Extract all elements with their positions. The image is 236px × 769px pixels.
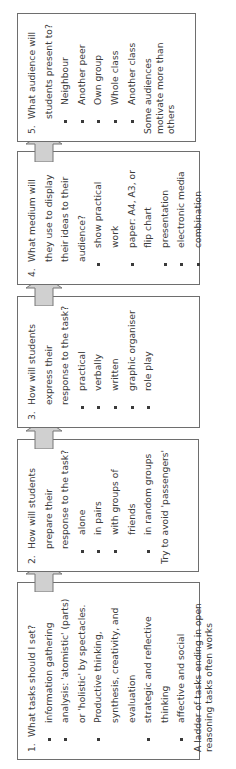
option-list: alone in pairs with groups of friends in…: [74, 446, 157, 564]
step-number: 2.: [24, 549, 74, 564]
step-note: Some audiences motivate more than others: [142, 20, 177, 134]
option-list: Neighbour Another peer Own group Whole c…: [57, 20, 140, 134]
step-question-5: 5. What audience will students present t…: [24, 20, 57, 134]
list-item: with groups of friends: [107, 446, 140, 555]
step-box-2: 2. How will students prepare their respo…: [17, 439, 199, 572]
list-item: in random groups: [140, 446, 157, 555]
question-text: What medium will they use to display the…: [24, 158, 90, 262]
list-item: presentation: [157, 158, 174, 268]
step-question-2: 2. How will students prepare their respo…: [24, 446, 74, 564]
list-item: paper: A4, A3, or flip chart: [124, 158, 157, 268]
step-question-1: 1. What tasks should I set?: [24, 589, 41, 752]
option-list: practical verbally written graphic organ…: [74, 303, 157, 420]
question-text: How will students prepare their response…: [24, 446, 74, 549]
list-item: verbally: [90, 303, 107, 411]
list-item: written: [107, 303, 124, 411]
step-box-4: 4. What medium will they use to display …: [17, 151, 200, 285]
list-item: practical: [74, 303, 91, 411]
list-item: Another peer: [74, 20, 91, 125]
list-item: Another class: [124, 20, 141, 125]
step-box-5: 5. What audience will students present t…: [17, 13, 196, 142]
option-list: information gathering analysis: 'atomist…: [41, 589, 190, 752]
step-box-3: 3. How will students express their respo…: [17, 296, 200, 428]
question-text: What tasks should I set?: [24, 589, 41, 737]
step-box-1: 1. What tasks should I set? information …: [17, 582, 200, 760]
step-note: Try to avoid 'passengers': [157, 446, 174, 564]
option-list: show practical work paper: A4, A3, or fl…: [90, 158, 206, 277]
step-number: 4.: [24, 262, 90, 277]
step-number: 5.: [24, 119, 57, 134]
list-item: role play: [140, 303, 157, 411]
step-question-4: 4. What medium will they use to display …: [24, 158, 90, 277]
list-item: Productive thinking, synthesis, creativi…: [90, 589, 140, 743]
task-ladder-diagram: 1. What tasks should I set? information …: [0, 0, 236, 769]
list-item: electronic media: [173, 158, 190, 268]
list-item: graphic organiser: [124, 303, 141, 411]
list-item: in pairs: [90, 446, 107, 555]
list-item: Whole class: [107, 20, 124, 125]
list-item: information gathering: [41, 589, 58, 743]
list-item: alone: [74, 446, 91, 555]
list-item: analysis: 'atomistic' (parts) or 'holist…: [57, 589, 90, 743]
step-note: A ladder of tasks ending in open reasoni…: [192, 589, 215, 752]
question-text: What audience will students present to?: [24, 20, 57, 119]
list-item: combination: [190, 158, 207, 268]
list-item: Own group: [90, 20, 107, 125]
step-number: 1.: [24, 737, 41, 752]
list-item: show practical work: [90, 158, 123, 268]
list-item: strategic and reflective thinking: [140, 589, 173, 743]
step-question-3: 3. How will students express their respo…: [24, 303, 74, 420]
list-item: affective and social: [173, 589, 190, 743]
list-item: Neighbour: [57, 20, 74, 125]
question-text: How will students express their response…: [24, 303, 74, 405]
step-number: 3.: [24, 405, 74, 420]
